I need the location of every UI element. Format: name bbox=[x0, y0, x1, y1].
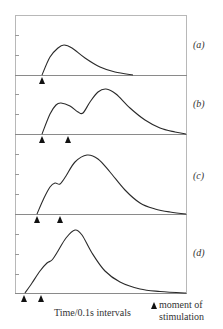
legend-text-line2: stimulation bbox=[159, 311, 204, 322]
stimulation-triangle-icon bbox=[65, 136, 71, 143]
legend-triangle-icon bbox=[151, 302, 157, 309]
panel-a-curve bbox=[42, 45, 133, 75]
panel-label-d: (d) bbox=[193, 247, 205, 259]
panel-label-b: (b) bbox=[193, 98, 205, 110]
panel-label-c: (c) bbox=[193, 170, 205, 182]
panel-c-curve bbox=[37, 155, 186, 214]
stimulation-triangle-icon bbox=[34, 216, 40, 223]
stimulation-triangle-icon bbox=[57, 216, 63, 223]
panel-label-a: (a) bbox=[193, 39, 205, 51]
panel-b-curve bbox=[42, 89, 186, 134]
stimulation-triangle-icon bbox=[39, 77, 45, 84]
legend-text-line1: moment of bbox=[159, 299, 203, 310]
x-axis-label: Time/0.1s intervals bbox=[54, 307, 131, 318]
stimulation-triangle-icon bbox=[38, 295, 44, 302]
twitch-summation-figure: (a) (b) (c) (d) Time/0.1s intervals mome… bbox=[0, 0, 223, 329]
stimulation-triangle-icon bbox=[39, 136, 45, 143]
figure-frame bbox=[16, 16, 187, 294]
panel-d-curve bbox=[25, 230, 186, 293]
stimulation-markers bbox=[21, 77, 71, 302]
stimulation-triangle-icon bbox=[21, 295, 27, 302]
